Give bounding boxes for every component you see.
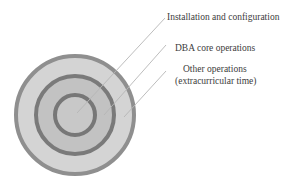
label-other-line2: (extracurricular time) (175, 76, 257, 87)
label-dba-core: DBA core operations (175, 43, 255, 54)
label-other-line1: Other operations (183, 64, 247, 75)
inner-circle-installation (55, 95, 95, 135)
concentric-diagram (0, 0, 290, 187)
label-installation: Installation and configuration (167, 12, 279, 23)
